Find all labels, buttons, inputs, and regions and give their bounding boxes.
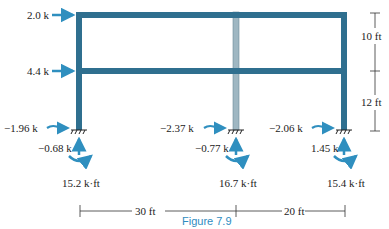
dimension-12ft: 12 ft <box>361 96 381 108</box>
figure-caption: Figure 7.9 <box>182 215 232 227</box>
right-vertical-reaction-label: 1.45 k <box>311 142 339 154</box>
roof-beam <box>76 12 347 18</box>
left-vertical-reaction-label: −0.68 k <box>38 142 72 154</box>
floor-beam <box>76 68 347 74</box>
moment-arc-left <box>69 156 91 161</box>
horizontal-reaction-left <box>47 126 68 128</box>
middle-horizontal-reaction-label: −2.37 k <box>160 122 194 134</box>
middle-moment-label: 16.7 k·ft <box>219 177 257 189</box>
fixed-support-middle <box>228 130 244 134</box>
left-horizontal-reaction-label: −1.96 k <box>4 122 38 134</box>
moment-arc-middle <box>226 156 248 161</box>
roof-load-label: 2.0 k <box>27 9 49 21</box>
horizontal-reaction-right <box>312 126 333 128</box>
horizontal-reaction-middle <box>204 126 225 128</box>
dimension-30ft: 30 ft <box>135 205 155 217</box>
middle-vertical-reaction-label: −0.77 k <box>195 142 229 154</box>
left-column <box>76 12 82 130</box>
left-moment-label: 15.2 k·ft <box>62 177 100 189</box>
frame-diagram <box>0 0 389 229</box>
right-horizontal-reaction-label: −2.06 k <box>269 122 303 134</box>
fixed-support-right <box>336 130 352 134</box>
dimension-20ft: 20 ft <box>284 205 304 217</box>
right-column <box>341 12 347 130</box>
floor-load-label: 4.4 k <box>27 65 49 77</box>
dimension-10ft: 10 ft <box>361 30 381 42</box>
right-moment-label: 15.4 k·ft <box>327 177 365 189</box>
moment-arc-right <box>334 156 356 161</box>
fixed-support-left <box>71 130 87 134</box>
